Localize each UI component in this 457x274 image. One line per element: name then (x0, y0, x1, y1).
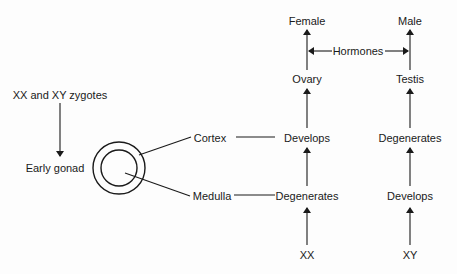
medulla-label: Medulla (193, 190, 232, 202)
ovary-label: Ovary (292, 73, 321, 85)
medulla-leader-line (125, 173, 190, 196)
cortex-label: Cortex (194, 132, 226, 144)
testis-label: Testis (396, 73, 424, 85)
xx-develops-label: Develops (284, 132, 330, 144)
xy-degenerates-label: Degenerates (379, 132, 442, 144)
female-label: Female (289, 15, 326, 27)
xy-label: XY (403, 249, 418, 261)
early-gonad-label: Early gonad (26, 162, 85, 174)
zygotes-label: XX and XY zygotes (13, 89, 108, 101)
gonad-inner-circle (101, 150, 137, 186)
cortex-leader-line (139, 137, 191, 155)
xx-degenerates-label: Degenerates (276, 190, 339, 202)
xy-develops-label: Develops (387, 190, 433, 202)
gonad-differentiation-diagram: XX and XY zygotes Early gonad Cortex Med… (0, 0, 457, 274)
male-label: Male (398, 15, 422, 27)
xx-label: XX (300, 249, 315, 261)
hormones-label: Hormones (333, 45, 384, 57)
